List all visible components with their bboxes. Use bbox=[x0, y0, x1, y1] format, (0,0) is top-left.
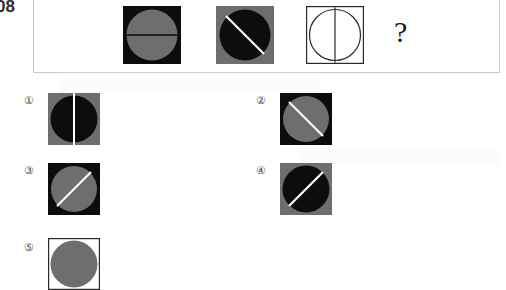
stem-figure-1 bbox=[123, 6, 181, 64]
option-5-label: ⑤ bbox=[24, 242, 34, 253]
option-5-figure[interactable] bbox=[48, 238, 100, 290]
option-3-graphic bbox=[48, 163, 100, 215]
option-3-label: ③ bbox=[24, 165, 34, 176]
option-1-figure[interactable] bbox=[48, 93, 100, 145]
stem-figure-3-graphic bbox=[306, 6, 364, 64]
option-1-graphic bbox=[48, 93, 100, 145]
stem-figure-1-graphic bbox=[123, 6, 181, 64]
unknown-question-mark: ? bbox=[394, 17, 407, 47]
stem-figure-2 bbox=[216, 6, 274, 64]
option-4-graphic bbox=[280, 163, 332, 215]
option-4-figure[interactable] bbox=[280, 163, 332, 215]
stem-frame: ? bbox=[33, 0, 500, 73]
question-number: 08 bbox=[0, 0, 15, 17]
option-2-label: ② bbox=[256, 95, 266, 106]
option-4-label: ④ bbox=[256, 165, 266, 176]
scan-artifact-band bbox=[300, 150, 500, 164]
option-2-figure[interactable] bbox=[280, 93, 332, 145]
option-1-label: ① bbox=[24, 95, 34, 106]
option-5-graphic bbox=[48, 238, 100, 290]
option-3-figure[interactable] bbox=[48, 163, 100, 215]
stem-figure-3 bbox=[306, 6, 364, 64]
stem-figure-2-graphic bbox=[216, 6, 274, 64]
option-2-graphic bbox=[280, 93, 332, 145]
scan-artifact-band bbox=[60, 78, 320, 94]
